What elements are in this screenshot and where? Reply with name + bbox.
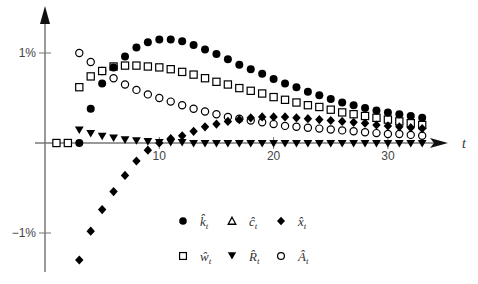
filled-down-triangle-marker-icon xyxy=(98,133,107,141)
filled-circle-marker-icon xyxy=(292,83,300,91)
open-circle-marker-icon xyxy=(327,126,334,133)
open-circle-marker-icon xyxy=(407,131,414,138)
filled-diamond-marker-icon xyxy=(277,217,285,226)
filled-diamond-marker-icon xyxy=(75,255,83,264)
open-circle-marker-icon xyxy=(396,130,403,137)
filled-circle-marker-icon xyxy=(304,88,312,96)
data-points xyxy=(53,36,427,265)
filled-circle-marker-icon xyxy=(384,108,392,116)
open-square-marker-icon xyxy=(190,71,197,78)
open-square-marker-icon xyxy=(270,94,277,101)
open-circle-marker-icon xyxy=(278,253,285,260)
filled-circle-marker-icon xyxy=(372,107,380,115)
open-square-marker-icon xyxy=(281,96,288,103)
filled-circle-marker-icon xyxy=(338,99,346,107)
open-square-marker-icon xyxy=(373,114,380,121)
open-circle-marker-icon xyxy=(190,105,197,112)
y-axis-arrow-icon xyxy=(40,6,50,24)
filled-circle-marker-icon xyxy=(190,41,198,49)
open-square-marker-icon xyxy=(156,64,163,71)
open-circle-marker-icon xyxy=(339,127,346,134)
open-square-marker-icon xyxy=(293,99,300,106)
open-circle-marker-icon xyxy=(419,132,426,139)
filled-circle-marker-icon xyxy=(247,65,255,73)
legend-item: k̂t xyxy=(179,214,209,231)
open-circle-marker-icon xyxy=(213,111,220,118)
open-circle-marker-icon xyxy=(76,49,83,56)
open-square-marker-icon xyxy=(247,87,254,94)
filled-circle-marker-icon xyxy=(75,139,83,147)
open-circle-marker-icon xyxy=(384,130,391,137)
filled-diamond-marker-icon xyxy=(349,118,357,127)
open-square-marker-icon xyxy=(144,63,151,70)
filled-diamond-marker-icon xyxy=(315,115,323,124)
legend-label: Ât xyxy=(297,249,309,266)
filled-diamond-marker-icon xyxy=(304,114,312,123)
filled-circle-marker-icon xyxy=(258,70,266,78)
filled-circle-marker-icon xyxy=(315,91,323,99)
filled-diamond-marker-icon xyxy=(144,146,152,155)
filled-circle-marker-icon xyxy=(281,80,289,88)
open-square-marker-icon xyxy=(167,66,174,73)
filled-diamond-marker-icon xyxy=(167,134,175,143)
legend-label: R̂t xyxy=(248,249,260,266)
legend-item: ĉt xyxy=(228,214,258,231)
open-square-marker-icon xyxy=(224,81,231,88)
open-circle-marker-icon xyxy=(293,123,300,130)
filled-circle-marker-icon xyxy=(178,37,186,45)
filled-diamond-marker-icon xyxy=(132,156,140,165)
filled-circle-marker-icon xyxy=(98,80,106,88)
filled-circle-marker-icon xyxy=(395,110,403,118)
legend-item: R̂t xyxy=(228,249,260,266)
impulse-response-chart: t 1020301%−1% k̂tĉtx̂tŵtR̂tÂt xyxy=(0,0,478,284)
open-square-marker-icon xyxy=(236,85,243,92)
open-square-marker-icon xyxy=(213,78,220,85)
filled-diamond-marker-icon xyxy=(292,113,300,122)
filled-down-triangle-marker-icon xyxy=(109,135,118,143)
filled-down-triangle-marker-icon xyxy=(86,130,95,138)
filled-diamond-marker-icon xyxy=(98,205,106,214)
open-square-marker-icon xyxy=(76,84,83,91)
open-square-marker-icon xyxy=(179,68,186,75)
legend-label: x̂t xyxy=(297,214,307,231)
open-circle-marker-icon xyxy=(350,128,357,135)
open-circle-marker-icon xyxy=(304,124,311,131)
filled-circle-marker-icon xyxy=(212,50,220,58)
filled-diamond-marker-icon xyxy=(121,171,129,180)
filled-diamond-marker-icon xyxy=(201,122,209,131)
open-circle-marker-icon xyxy=(110,75,117,82)
legend-label: ŵt xyxy=(200,249,212,266)
legend-item: ŵt xyxy=(180,249,212,266)
open-square-marker-icon xyxy=(259,90,266,97)
legend-item: Ât xyxy=(278,249,309,266)
x-tick-label: 30 xyxy=(381,149,395,163)
open-circle-marker-icon xyxy=(133,86,140,93)
legend-label: ĉt xyxy=(249,214,258,231)
open-circle-marker-icon xyxy=(121,81,128,88)
filled-circle-marker-icon xyxy=(418,114,426,122)
filled-diamond-marker-icon xyxy=(269,112,277,121)
open-square-marker-icon xyxy=(316,103,323,110)
x-axis-label: t xyxy=(462,136,467,151)
filled-circle-marker-icon xyxy=(155,36,163,44)
open-circle-marker-icon xyxy=(373,130,380,137)
filled-circle-marker-icon xyxy=(132,44,140,52)
open-circle-marker-icon xyxy=(201,108,208,115)
open-triangle-marker-icon xyxy=(228,217,236,224)
filled-diamond-marker-icon xyxy=(327,116,335,125)
filled-circle-marker-icon xyxy=(167,36,175,44)
filled-circle-marker-icon xyxy=(235,61,243,69)
filled-circle-marker-icon xyxy=(110,63,118,71)
legend-label: k̂t xyxy=(200,214,209,231)
y-tick-label: 1% xyxy=(19,46,37,60)
open-square-marker-icon xyxy=(87,73,94,80)
filled-diamond-marker-icon xyxy=(212,120,220,129)
open-square-marker-icon xyxy=(64,139,71,146)
filled-circle-marker-icon xyxy=(350,101,358,109)
x-tick-label: 20 xyxy=(267,149,281,163)
filled-diamond-marker-icon xyxy=(109,187,117,196)
open-circle-marker-icon xyxy=(270,121,277,128)
y-tick-label: −1% xyxy=(12,226,37,240)
filled-circle-marker-icon xyxy=(201,45,209,53)
filled-circle-marker-icon xyxy=(327,95,335,103)
